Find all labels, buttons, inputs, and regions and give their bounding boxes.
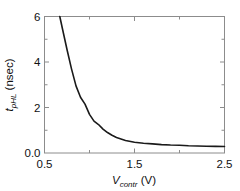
x-tick-label: 0.5 <box>37 158 53 170</box>
x-tick-label: 2.5 <box>217 158 233 170</box>
x-axis-title-unit: (V) <box>137 174 156 186</box>
y-tick-label: 2 <box>34 102 40 114</box>
y-tick-label: 4 <box>34 56 41 68</box>
y-tick-label: 0.0 <box>25 147 41 159</box>
y-tick-label: 6 <box>34 11 40 23</box>
plot-canvas: 0.51.52.5 0.0246 Vcontr (V) tpHL (nsec) <box>0 0 240 191</box>
y-axis-title-unit: (nsec) <box>3 58 15 93</box>
x-axis-title-sub: contr <box>120 180 138 189</box>
chart-figure: 0.51.52.5 0.0246 Vcontr (V) tpHL (nsec) <box>0 0 240 191</box>
x-tick-label: 1.5 <box>127 158 143 170</box>
y-axis-title-sub: pHL <box>9 94 18 110</box>
